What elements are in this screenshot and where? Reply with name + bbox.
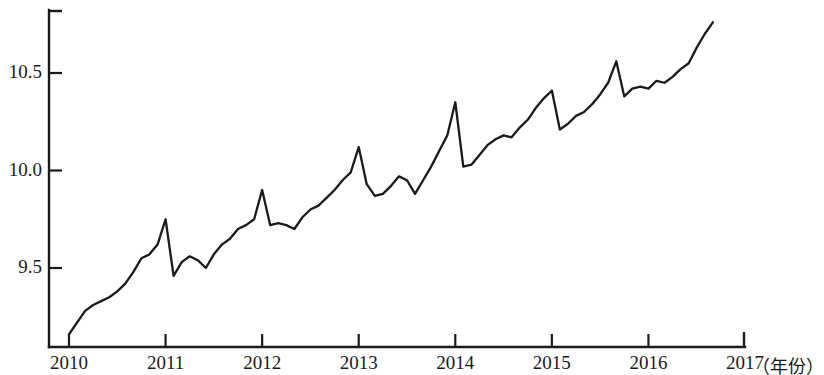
data-line-series-1 (69, 22, 713, 334)
line-chart-canvas (0, 0, 824, 375)
x-tick-label: 2012 (222, 352, 302, 374)
x-tick-label: 2014 (415, 352, 495, 374)
x-tick-label: 2011 (126, 352, 206, 374)
chart-figure: 9.510.010.5 2010201120122013201420152016… (0, 0, 824, 375)
x-tick-label: 2010 (29, 352, 109, 374)
x-tick-label: 2013 (319, 352, 399, 374)
x-tick-marks (69, 334, 648, 347)
x-tick-label: 2015 (512, 352, 592, 374)
y-tick-label: 9.5 (0, 256, 42, 278)
y-tick-label: 10.0 (0, 159, 42, 181)
y-tick-marks (49, 73, 62, 268)
x-axis-unit-label: （年份） (752, 352, 824, 375)
x-tick-label: 2016 (608, 352, 688, 374)
y-tick-label: 10.5 (0, 61, 42, 83)
